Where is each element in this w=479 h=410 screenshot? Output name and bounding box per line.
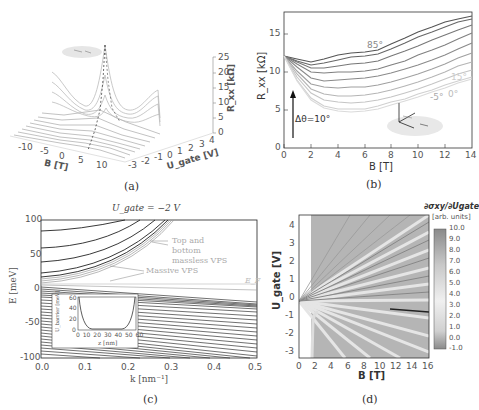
d-cbar-tick: -1.0 [449, 344, 463, 352]
d-cbar-tick: 8.0 [449, 246, 460, 254]
d-ytick: 3 [289, 238, 295, 248]
d-xtick: 14 [406, 361, 417, 371]
d-ytick: -3 [285, 346, 294, 356]
d-ytick: 1 [289, 274, 295, 284]
d-xtick: 16 [422, 361, 433, 371]
d-ytick: -2 [285, 328, 294, 338]
d-xtick: 6 [345, 361, 351, 371]
d-cbar-tick: 4.0 [449, 290, 460, 298]
d-ytick: 0 [289, 292, 295, 302]
d-cbar-tick: 1.0 [449, 323, 460, 331]
d-xtick: 12 [390, 361, 401, 371]
d-xtick: 4 [328, 361, 334, 371]
d-cbar-tick: 2.0 [449, 312, 460, 320]
d-cbar-tick: 7.0 [449, 257, 460, 265]
d-cbar-tick: 3.0 [449, 301, 460, 309]
d-ytick: 4 [289, 220, 295, 230]
d-cbar-tick: 5.0 [449, 279, 460, 287]
d-cbar-title: ∂σxy/∂Ugate [424, 202, 479, 211]
d-ytick: -1 [285, 310, 294, 320]
d-xlabel: B [T] [358, 370, 385, 381]
d-ytick: 2 [289, 256, 295, 266]
d-cbar-unit: [arb. units] [432, 213, 471, 221]
d-cbar-tick: 6.0 [449, 268, 460, 276]
d-cbar-tick: 0.0 [449, 334, 460, 342]
d-cbar-tick: 9.0 [449, 235, 460, 243]
caption-d: (d) [362, 393, 378, 406]
d-ylabel: U_gate [V] [271, 251, 282, 310]
d-xtick: 0 [296, 361, 302, 371]
d-xtick: 2 [312, 361, 318, 371]
d-cbar-tick: 10.0 [449, 224, 465, 232]
